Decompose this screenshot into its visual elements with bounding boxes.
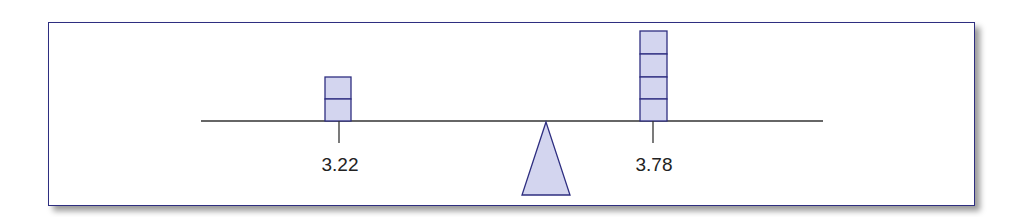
balance-diagram <box>0 0 1027 217</box>
right-value-label: 3.78 <box>636 154 673 176</box>
left-block-stack <box>325 77 351 121</box>
fulcrum-triangle <box>522 122 570 195</box>
left-value-label: 3.22 <box>322 154 359 176</box>
right-block-stack <box>640 31 667 121</box>
